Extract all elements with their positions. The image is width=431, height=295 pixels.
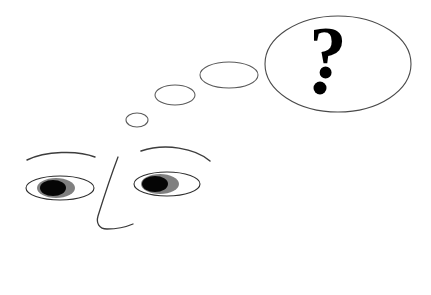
right-eye <box>134 172 200 196</box>
thought-bubble-large: ? <box>265 12 411 112</box>
left-eye-pupil <box>40 180 66 196</box>
thought-bubble-trail-large <box>200 62 258 88</box>
right-eye-pupil <box>142 176 168 192</box>
thought-bubble-trail-medium <box>155 85 195 105</box>
question-mark-dot-icon <box>314 82 327 95</box>
nose <box>97 157 133 229</box>
illustration-canvas: ? <box>0 0 431 295</box>
left-eyebrow <box>27 152 95 160</box>
left-eye <box>26 176 94 200</box>
question-mark-glyph: ? <box>310 12 347 94</box>
thought-bubble-trail-small <box>126 113 148 127</box>
thinking-face-illustration: ? <box>0 0 431 295</box>
face <box>26 147 210 229</box>
right-eyebrow <box>141 147 210 161</box>
